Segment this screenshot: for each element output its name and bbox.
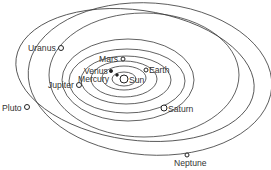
saturn-label: Saturn (168, 104, 194, 114)
earth-icon (144, 68, 148, 72)
pluto-label: Pluto (2, 103, 22, 113)
pluto-icon (25, 105, 30, 110)
solar-system-diagram: Sun Mercury Venus Earth Mars Jupiter Sat… (0, 0, 271, 170)
uranus-icon (59, 46, 64, 51)
saturn-icon (161, 105, 167, 111)
earth-label: Earth (149, 65, 170, 75)
venus-icon (109, 69, 112, 72)
jupiter-icon (77, 83, 82, 88)
neptune-icon (185, 153, 189, 157)
mars-icon (121, 57, 125, 61)
sun-icon (120, 75, 128, 83)
jupiter-label: Jupiter (48, 80, 74, 90)
uranus-label: Uranus (28, 43, 56, 53)
venus-label: Venus (84, 66, 108, 76)
neptune-label: Neptune (174, 158, 207, 168)
mars-label: Mars (99, 54, 118, 64)
mercury-icon (116, 74, 119, 77)
sun-label: Sun (129, 75, 145, 85)
